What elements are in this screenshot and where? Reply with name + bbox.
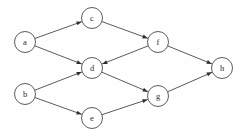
arrowhead-icon [76,22,82,26]
node-label: e [90,113,94,123]
arrowhead-icon [76,72,82,76]
arrowhead-icon [102,60,108,64]
graph-node-f[interactable]: f [148,32,169,53]
graph-edge [102,72,148,92]
graph-edge [102,22,148,39]
arrowhead-icon [142,35,148,39]
graph-node-a[interactable]: a [15,32,36,53]
graph-figure: abcdefgh [0,0,242,138]
arrowhead-icon [206,72,212,76]
graph-node-b[interactable]: b [15,84,36,105]
graph-node-g[interactable]: g [148,86,169,107]
node-label: a [23,37,27,47]
graph-node-c[interactable]: c [82,8,103,29]
graph-edge [102,99,148,114]
graph-edge [35,98,82,115]
graph-edge [35,46,82,64]
arrowhead-icon [76,60,82,64]
nodes-layer: abcdefgh [15,8,233,129]
graph-edge [102,46,148,64]
arrowhead-icon [76,111,82,115]
edges-layer [35,22,212,115]
graph-node-e[interactable]: e [82,108,103,129]
arrowhead-icon [142,88,148,92]
graph-canvas: abcdefgh [0,0,242,138]
node-label: b [23,89,27,99]
graph-edge [35,72,82,90]
node-label: c [90,13,94,23]
graph-node-d[interactable]: d [82,58,103,79]
graph-node-h[interactable]: h [212,58,233,79]
arrowhead-icon [142,99,148,103]
arrowhead-icon [206,60,212,64]
graph-edge [168,72,212,91]
node-label: f [157,37,160,47]
graph-edge [168,46,212,64]
graph-edge [35,22,82,39]
